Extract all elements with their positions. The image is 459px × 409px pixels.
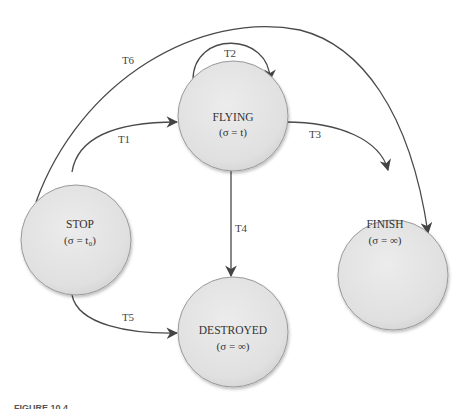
- state-sigma: (σ = t₀): [64, 234, 96, 247]
- state-sigma: (σ = ∞): [369, 234, 402, 247]
- state-stop: STOP (σ = t₀): [21, 185, 131, 295]
- label-t1: T1: [118, 133, 130, 145]
- state-diagram: T6 T1 T2 T3 T4 T5 FLYING (σ = t) STOP (σ…: [0, 0, 459, 409]
- label-t4: T4: [235, 222, 248, 234]
- edge-t3: [285, 122, 388, 170]
- edge-t1: [72, 122, 177, 172]
- label-t6: T6: [122, 54, 135, 66]
- label-t2: T2: [224, 47, 236, 59]
- label-t3: T3: [309, 128, 322, 140]
- state-destroyed: DESTROYED (σ = ∞): [178, 277, 288, 387]
- state-flying: FLYING (σ = t): [178, 61, 288, 171]
- state-name: DESTROYED: [199, 324, 267, 336]
- label-t5: T5: [122, 311, 135, 323]
- state-finish: FINISH (σ = ∞): [338, 218, 448, 330]
- figure-caption: FIGURE 10.4: [14, 404, 68, 409]
- state-name: FINISH: [366, 218, 403, 230]
- state-sigma: (σ = t): [219, 126, 247, 139]
- state-name: FLYING: [212, 111, 253, 123]
- state-name: STOP: [66, 218, 94, 230]
- state-sigma: (σ = ∞): [217, 340, 250, 353]
